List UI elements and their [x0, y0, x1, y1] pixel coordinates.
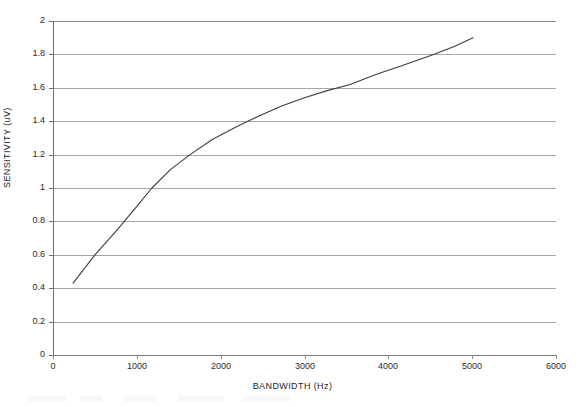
series-line-sensitivity — [73, 38, 473, 283]
scan-artifact — [28, 396, 328, 402]
sensitivity-bandwidth-chart: 00.20.40.60.811.21.41.61.82 010002000300… — [0, 0, 585, 407]
plot-series-layer — [0, 0, 585, 407]
x-axis-title: BANDWIDTH (Hz) — [0, 381, 585, 391]
y-axis-title: SENSITIVITY (uV) — [2, 107, 12, 188]
